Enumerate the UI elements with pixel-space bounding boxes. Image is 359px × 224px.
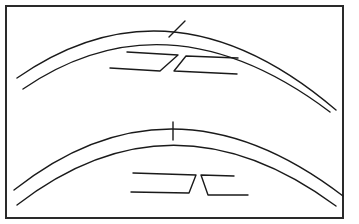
- top-panel: [17, 21, 336, 112]
- bottom-panel: [14, 122, 343, 206]
- bottom-right-bracket: [201, 175, 248, 195]
- top-right-bracket: [174, 56, 238, 74]
- top-left-bracket: [110, 52, 178, 71]
- diagram-canvas: [0, 0, 359, 224]
- bottom-inner-arc: [17, 145, 336, 206]
- diagram-frame: [6, 6, 343, 218]
- bottom-left-bracket: [131, 173, 196, 193]
- bottom-outer-arc: [14, 129, 343, 196]
- top-slanted-connector: [169, 21, 185, 37]
